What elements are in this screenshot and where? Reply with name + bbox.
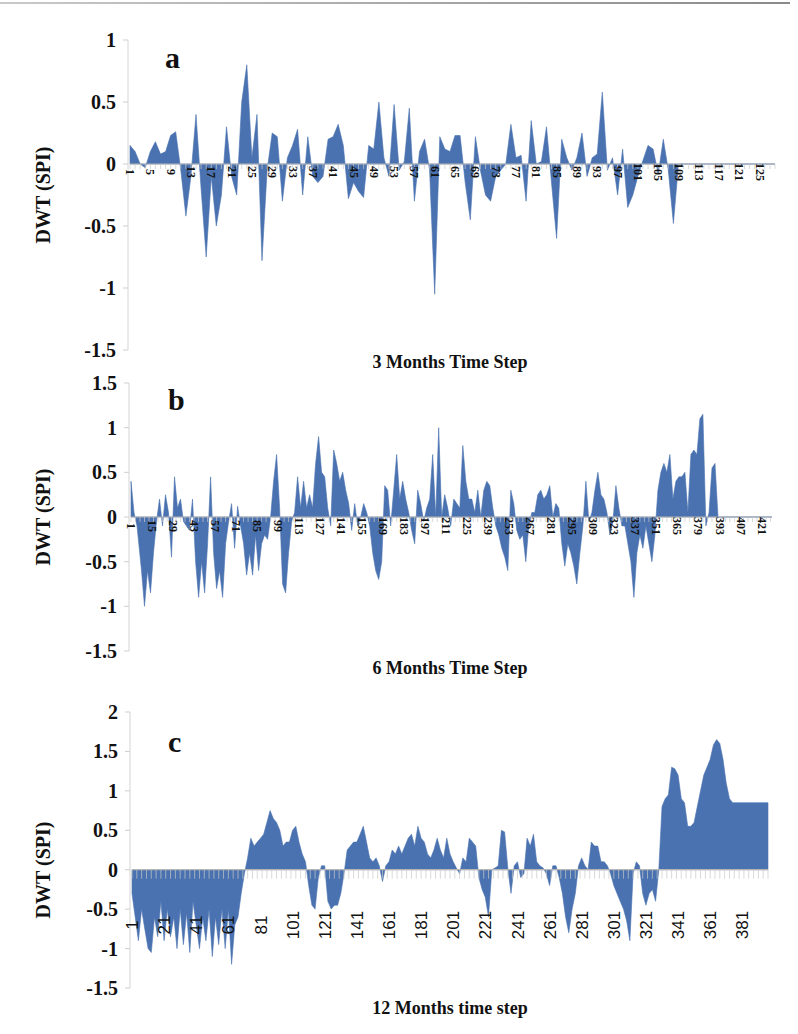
x-tick-label: 181 [412,911,431,939]
x-tick-label: 1 [124,523,138,529]
x-tick-label: 121 [316,911,335,939]
x-tick-label: 101 [631,163,645,181]
x-tick-label: 53 [387,166,401,178]
x-tick-label: 37 [306,166,320,178]
x-tick-label: 201 [444,911,463,939]
x-tick-label: 281 [573,911,592,939]
x-tick-label: 141 [348,911,367,939]
x-tick-label: 45 [347,166,361,178]
panel-a-x-axis-title: 3 Months Time Step [373,352,528,372]
panel-a: a DWT (SPI) 3 Months Time Step 10.50-0.5… [32,29,775,372]
x-tick-label: 9 [164,169,178,175]
x-tick-label: 101 [284,911,303,939]
x-tick-label: 73 [489,166,503,178]
y-tick-label: 0 [108,859,118,881]
panel-a-y-axis-title: DWT (SPI) [32,147,55,244]
panel-c: c DWT (SPI) 12 Months time step 21.510.5… [32,701,768,1018]
x-tick-label: 29 [265,166,279,178]
x-tick-label: 301 [605,911,624,939]
x-tick-label: 57 [208,520,222,532]
panel-b-x-axis-title: 6 Months Time Step [373,658,528,678]
x-tick-label: 1 [123,169,137,175]
dwt-spi-figure: a DWT (SPI) 3 Months Time Step 10.50-0.5… [0,0,798,1034]
panel-b-y-axis-title: DWT (SPI) [32,469,55,566]
x-tick-label: 323 [607,517,621,535]
x-tick-label: 183 [397,517,411,535]
x-tick-label: 241 [509,911,528,939]
x-tick-label: 99 [271,520,285,532]
y-tick-label: -1 [100,595,117,617]
x-tick-label: 113 [692,163,706,180]
x-tick-label: 121 [732,163,746,181]
x-tick-label: 261 [541,911,560,939]
y-tick-label: 0 [106,153,116,175]
x-tick-label: 77 [509,166,523,178]
x-tick-label: 211 [439,517,453,534]
x-tick-label: 93 [590,166,604,178]
x-tick-label: 89 [570,166,584,178]
x-tick-label: 127 [313,517,327,535]
x-tick-label: 81 [252,916,271,935]
x-tick-label: 85 [250,520,264,532]
x-tick-label: 41 [326,166,340,178]
x-tick-label: 267 [523,517,537,535]
y-tick-label: -1.5 [85,640,117,662]
y-tick-label: -1 [99,277,116,299]
x-tick-label: 381 [733,911,752,939]
x-tick-label: 21 [155,916,174,935]
x-tick-label: 41 [187,916,206,935]
y-tick-label: 1.5 [92,372,117,394]
x-tick-label: 239 [481,517,495,535]
x-tick-label: 13 [184,166,198,178]
x-tick-label: 85 [550,166,564,178]
y-tick-label: 1.5 [93,740,118,762]
y-tick-label: 1 [106,29,116,51]
x-tick-label: 365 [670,517,684,535]
x-tick-label: 141 [334,517,348,535]
x-tick-label: 161 [380,911,399,939]
x-tick-label: 113 [292,517,306,534]
y-tick-label: 0.5 [91,91,116,113]
x-tick-label: 43 [187,520,201,532]
y-tick-label: -1.5 [86,977,118,999]
x-tick-label: 15 [145,520,159,532]
x-tick-label: 321 [637,911,656,939]
x-tick-label: 169 [376,517,390,535]
x-tick-label: 105 [651,163,665,181]
panel-a-plot-area: 10.50-0.5-1-1.51591317212529333741454953… [84,29,775,361]
x-tick-label: 33 [286,166,300,178]
x-tick-label: 49 [367,166,381,178]
panel-c-plot-area: 21.510.50-0.5-1-1.5121416181101121141161… [86,701,768,999]
x-tick-label: 117 [712,163,726,180]
y-tick-label: -1 [101,938,118,960]
x-tick-label: 351 [649,517,663,535]
x-tick-label: 61 [219,916,238,935]
y-tick-label: -1.5 [84,339,116,361]
panel-a-letter: a [165,41,180,74]
x-tick-label: 341 [669,911,688,939]
y-tick-label: -0.5 [84,215,116,237]
x-tick-label: 309 [586,517,600,535]
spi-area-series [131,414,772,606]
x-tick-label: 5 [143,169,157,175]
x-tick-label: 65 [448,166,462,178]
panel-c-y-axis-title: DWT (SPI) [32,822,55,919]
x-tick-label: 71 [229,520,243,532]
x-tick-label: 21 [225,166,239,178]
x-tick-label: 97 [611,166,625,178]
x-tick-label: 57 [407,166,421,178]
x-tick-label: 407 [734,517,748,535]
x-tick-label: 109 [672,163,686,181]
x-tick-label: 361 [701,911,720,939]
y-tick-label: 0.5 [93,819,118,841]
panel-c-x-axis-title: 12 Months time step [372,998,528,1018]
x-tick-label: 25 [245,166,259,178]
y-tick-label: 1 [108,780,118,802]
x-tick-label: 81 [529,166,543,178]
x-tick-label: 221 [476,911,495,939]
x-tick-label: 281 [544,517,558,535]
panel-b-letter: b [168,383,185,416]
y-tick-label: 0 [107,506,117,528]
x-tick-label: 379 [691,517,705,535]
x-tick-label: 337 [628,517,642,535]
